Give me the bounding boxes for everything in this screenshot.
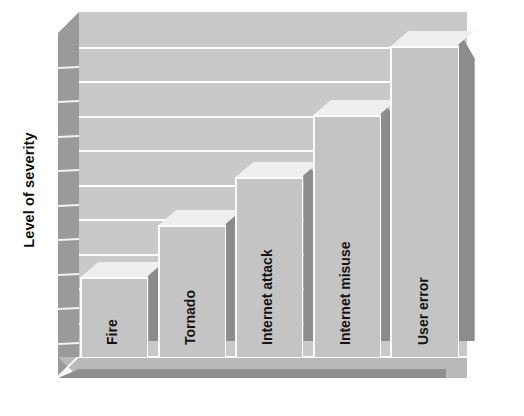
plot-area: FireTornadoInternet attackInternet misus… [0,0,524,416]
bar-front-face [313,116,381,358]
gridline-side [58,307,79,310]
gridline-side [58,203,79,206]
bar-front-face [235,178,303,357]
floor-left-edge [58,357,88,379]
bar[interactable]: User error [390,47,458,358]
floor-front-edge [58,369,446,378]
bar-top-edge [313,115,381,117]
bar-top-edge [235,177,303,179]
gridline-side [58,134,79,137]
bar-top-edge [390,46,458,48]
left-wall [58,12,79,378]
gridline-side [58,341,79,344]
bar-top-edge [158,225,226,227]
bar-side-face [459,31,475,342]
bar[interactable]: Internet misuse [313,116,381,358]
bar-front-face [80,278,148,357]
bar-top-edge [80,277,148,279]
bar[interactable]: Internet attack [235,178,303,357]
bar[interactable]: Tornado [158,226,226,357]
bar[interactable]: Fire [80,278,148,357]
bar-front-face [390,47,458,358]
gridline-side [58,100,79,103]
gridline-side [58,238,79,241]
gridline-side [58,65,79,68]
bar-chart: Level of severity FireTornadoInternet at… [0,0,524,416]
gridline-side [58,272,79,275]
bar-front-face [158,226,226,357]
gridline-side [58,169,79,172]
